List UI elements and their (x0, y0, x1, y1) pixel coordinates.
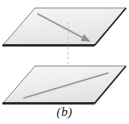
upper-plane-group (2, 8, 126, 45)
lower-plane-surface (3, 66, 126, 103)
figure-caption: (b) (0, 104, 129, 120)
geometry-figure: (b) (0, 0, 129, 124)
upper-plane-surface (3, 8, 126, 45)
lower-plane-group (2, 66, 126, 103)
